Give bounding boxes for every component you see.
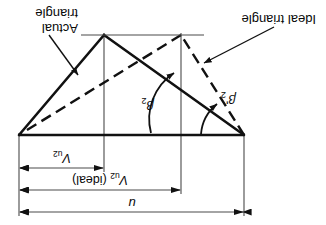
ideal-triangle	[19, 35, 244, 135]
dimension-label-vu2: Vu2	[53, 149, 71, 165]
arrowhead-u-right	[19, 209, 29, 215]
arrowhead-vu2-left	[94, 165, 104, 171]
velocity-triangle-figure: u Vu2 (ideal) Vu2	[0, 0, 326, 225]
angle-arcs	[149, 73, 217, 134]
callout-label-actual-triangle: Actual triangle	[35, 6, 78, 36]
callout-label-ideal-triangle: Ideal triangle	[242, 12, 316, 27]
dimension-label-u: u	[128, 196, 135, 211]
dimension-label-vu2-ideal: Vu2 (ideal)	[72, 171, 128, 187]
arrowhead-vu2-right	[19, 165, 29, 171]
actual-triangle	[19, 35, 244, 135]
leader-line-actual-triangle	[49, 35, 78, 75]
angle-label-beta2: β2	[142, 96, 155, 113]
callout-leaders	[49, 27, 274, 75]
arrowhead-u-left	[234, 209, 244, 215]
arrowhead-vu2-ideal-right	[19, 187, 29, 193]
ideal-triangle-side-left	[181, 35, 244, 135]
figure-canvas: u Vu2 (ideal) Vu2	[0, 0, 326, 225]
arrowhead-vu2-ideal-left	[171, 187, 181, 193]
actual-triangle-side-left	[104, 35, 244, 135]
ideal-triangle-side-right	[19, 35, 181, 135]
leader-line-ideal-triangle	[204, 27, 274, 63]
actual-triangle-side-right	[19, 35, 104, 135]
